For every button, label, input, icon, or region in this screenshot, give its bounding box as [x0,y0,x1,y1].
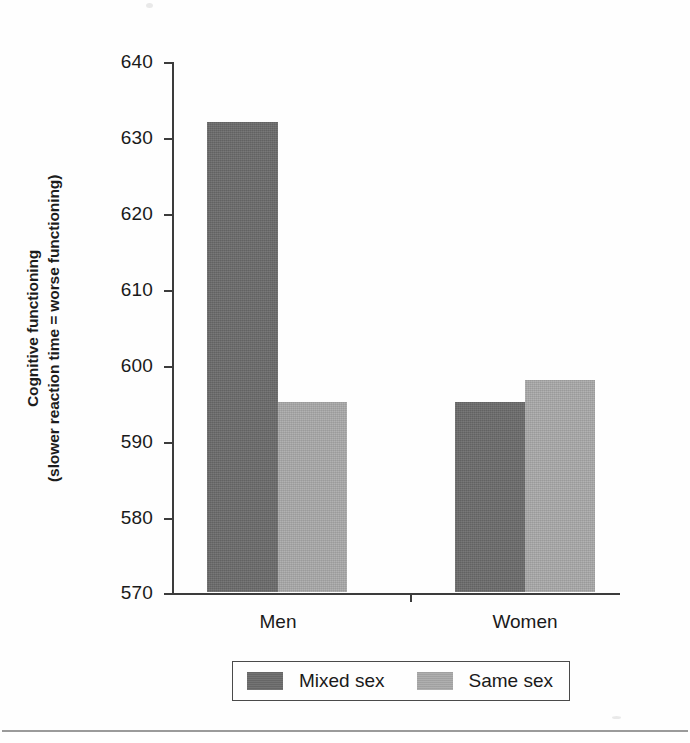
y-tick: 590 [164,442,172,444]
y-tick-label: 630 [121,127,153,149]
y-axis-line [172,62,174,595]
legend-item-same-sex: Same sex [417,670,553,692]
y-axis-title-line2: (slower reaction time = worse functionin… [44,174,65,481]
legend-item-mixed-sex: Mixed sex [247,670,385,692]
scan-artifact [146,3,153,8]
y-tick: 570 [164,593,172,595]
footer-divider [2,730,688,732]
x-axis-label-women: Women [492,611,557,633]
chart-legend: Mixed sex Same sex [232,661,570,701]
scan-artifact [612,716,621,719]
legend-swatch-mixed-sex [247,672,283,690]
x-axis-label-men: Men [260,611,297,633]
bar-women-same-sex [525,380,595,592]
y-tick: 610 [164,290,172,292]
y-tick-label: 640 [121,51,153,73]
y-tick: 620 [164,214,172,216]
bar-women-mixed-sex [455,402,525,592]
chart-figure: Cognitive functioning (slower reaction t… [0,0,690,743]
x-axis-group-separator-tick [410,593,412,602]
legend-label-same-sex: Same sex [469,670,553,692]
y-tick: 600 [164,366,172,368]
legend-swatch-same-sex [417,672,453,690]
y-tick: 580 [164,518,172,520]
y-axis-title-line1: Cognitive functioning [25,249,42,406]
bar-men-same-sex [278,402,347,592]
y-tick: 640 [164,62,172,64]
y-tick: 630 [164,138,172,140]
y-tick-label: 610 [121,279,153,301]
y-axis-title: Cognitive functioning (slower reaction t… [14,62,74,594]
y-tick-label: 580 [121,507,153,529]
bar-men-mixed-sex [207,122,278,592]
legend-label-mixed-sex: Mixed sex [299,670,385,692]
plot-area: 640 630 620 610 600 590 580 570 [172,62,620,594]
x-axis-line [172,593,620,595]
y-tick-label: 570 [121,582,153,604]
y-tick-label: 590 [121,431,153,453]
y-tick-label: 600 [121,355,153,377]
y-tick-label: 620 [121,203,153,225]
